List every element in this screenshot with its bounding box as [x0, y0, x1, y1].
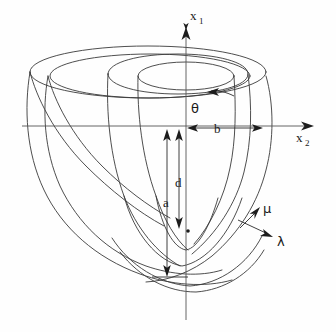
outer-epicardial-surface: [27, 46, 272, 285]
axis-x1-label: x: [190, 8, 197, 23]
dimension-a-label: a: [163, 195, 169, 210]
axis-x1-sublabel: 1: [199, 16, 204, 26]
figure-container: x 1 x 2 θ b a: [0, 0, 336, 332]
dimension-d: d: [175, 129, 183, 229]
mu-annotation: μ: [240, 201, 271, 228]
mu-label: μ: [263, 201, 271, 216]
lambda-annotation: λ: [238, 220, 285, 249]
theta-annotation: θ: [191, 88, 234, 116]
dimension-b: b: [187, 121, 263, 136]
apex-curves: [112, 196, 264, 292]
lambda-label: λ: [277, 234, 285, 249]
axis-x2-sublabel: 2: [305, 138, 310, 148]
axis-x2-label: x: [296, 130, 303, 145]
dimension-d-label: d: [175, 175, 182, 190]
dimension-b-label: b: [214, 121, 221, 136]
focus-point: [186, 229, 190, 233]
prolate-spheroid-diagram: x 1 x 2 θ b a: [0, 0, 336, 332]
theta-label: θ: [191, 101, 199, 116]
